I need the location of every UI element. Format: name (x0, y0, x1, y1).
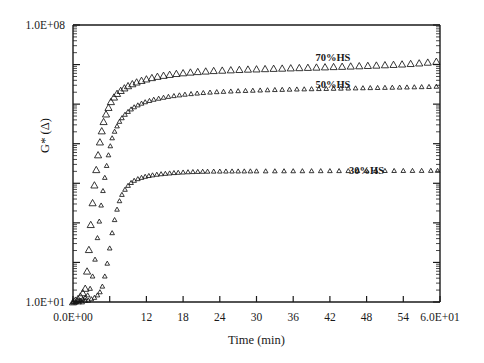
data-marker (200, 169, 205, 173)
data-marker (419, 168, 424, 172)
data-marker (87, 221, 94, 227)
data-marker (85, 246, 92, 252)
data-marker (201, 90, 206, 94)
data-marker (217, 169, 222, 173)
data-marker (177, 93, 182, 97)
data-marker (318, 169, 323, 173)
x-tick-label: 12 (141, 311, 153, 323)
data-marker (187, 69, 194, 75)
data-marker (89, 199, 96, 205)
data-marker (224, 169, 229, 173)
data-marker (104, 163, 109, 167)
data-marker (300, 169, 305, 173)
data-marker (112, 218, 117, 222)
data-marker (115, 207, 120, 211)
x-tick-label: 48 (361, 311, 373, 323)
data-marker (95, 236, 100, 240)
data-marker (253, 66, 260, 72)
data-marker (110, 136, 115, 140)
data-marker (339, 63, 346, 69)
data-marker (227, 67, 234, 73)
data-marker (126, 183, 131, 187)
data-marker (83, 268, 90, 274)
data-marker (195, 169, 200, 173)
data-marker (102, 111, 109, 117)
figure-canvas: 1.0E+081.0E+010.0E+0012182430364248546.0… (0, 0, 484, 363)
data-marker (321, 64, 328, 70)
data-marker (173, 70, 180, 76)
data-marker (302, 87, 307, 91)
x-tick-label: 54 (398, 311, 410, 323)
data-marker (105, 104, 112, 110)
data-marker (399, 61, 406, 67)
data-marker (117, 199, 122, 203)
data-marker (100, 284, 105, 288)
data-marker (210, 67, 217, 73)
data-marker (273, 169, 278, 173)
data-marker (328, 169, 333, 173)
data-marker (181, 170, 186, 174)
series-label-50pctHS: 50%HS (315, 79, 350, 90)
series-label-70pctHS: 70%HS (315, 52, 350, 63)
data-marker (96, 139, 103, 145)
data-marker (176, 170, 181, 174)
data-marker (236, 89, 241, 93)
data-marker (107, 246, 112, 250)
data-marker (263, 169, 268, 173)
data-marker (397, 85, 402, 89)
data-marker (219, 67, 226, 73)
data-marker (161, 95, 166, 99)
data-marker (120, 192, 125, 196)
data-marker (183, 92, 188, 96)
data-marker (112, 129, 117, 133)
data-marker (304, 64, 311, 70)
data-marker (251, 88, 256, 92)
data-marker (95, 152, 102, 158)
data-marker (291, 169, 296, 173)
data-marker (282, 169, 287, 173)
data-marker (236, 169, 241, 173)
data-marker (309, 87, 314, 91)
series-label-30pctHS: 30%HS (349, 165, 384, 176)
data-marker (143, 100, 148, 104)
data-marker (429, 168, 434, 172)
data-marker (115, 124, 120, 128)
x-axis-title: Time (min) (228, 333, 285, 347)
data-marker (93, 166, 100, 172)
data-marker (353, 86, 358, 90)
y-tick-label-max: 1.0E+08 (26, 19, 66, 31)
data-marker (368, 86, 373, 90)
data-marker (189, 92, 194, 96)
data-marker (202, 68, 209, 74)
data-marker (280, 87, 285, 91)
data-marker (381, 62, 388, 68)
data-marker (392, 168, 397, 172)
data-marker (100, 118, 107, 124)
data-marker (356, 63, 363, 69)
data-marker (230, 169, 235, 173)
data-marker (373, 62, 380, 68)
data-marker (172, 171, 177, 175)
data-marker (205, 169, 210, 173)
data-marker (347, 63, 354, 69)
data-marker (102, 175, 107, 179)
data-marker (195, 91, 200, 95)
data-marker (229, 89, 234, 93)
series-70pctHS (69, 58, 439, 305)
data-marker (433, 58, 440, 64)
data-marker (270, 65, 277, 71)
x-tick-label: 24 (214, 311, 226, 323)
data-marker (407, 60, 414, 66)
x-tick-label: 30 (251, 311, 263, 323)
data-marker (123, 187, 128, 191)
data-marker (208, 90, 213, 94)
data-marker (99, 203, 104, 207)
x-tick-label: 6.0E+01 (420, 311, 460, 323)
data-marker (211, 169, 216, 173)
data-marker (97, 219, 102, 223)
series-30pctHS (71, 168, 440, 304)
data-marker (106, 153, 111, 157)
data-marker (221, 89, 226, 93)
y-tick-label-min: 1.0E+01 (26, 296, 66, 308)
data-marker (244, 66, 251, 72)
